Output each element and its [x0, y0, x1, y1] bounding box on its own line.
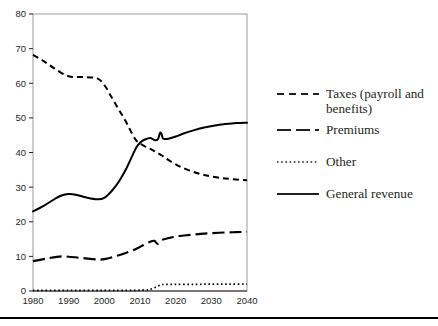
- x-tick-label: 2020: [165, 295, 186, 306]
- x-tick-label: 2040: [236, 295, 257, 306]
- legend-swatch-solid-icon: [277, 186, 319, 200]
- y-tick-label: 80: [15, 8, 26, 19]
- legend-swatch-dashed-long-icon: [277, 122, 319, 136]
- legend-item-general-revenue: General revenue: [277, 186, 438, 201]
- y-tick-label: 30: [15, 182, 26, 193]
- y-tick-label: 10: [15, 251, 26, 262]
- legend-item-premiums: Premiums: [277, 122, 438, 137]
- y-tick-label: 40: [15, 147, 26, 158]
- chart-legend: Taxes (payroll and benefits) Premiums Ot…: [277, 86, 438, 201]
- y-tick-marks: [29, 14, 33, 291]
- y-tick-label: 50: [15, 112, 26, 123]
- line-chart-svg: 01020304050607080 1980199020002010202020…: [0, 0, 270, 312]
- footer-divider: [0, 317, 438, 319]
- x-tick-label: 2010: [129, 295, 150, 306]
- y-tick-label: 70: [15, 43, 26, 54]
- legend-swatch-dotted-icon: [277, 154, 319, 168]
- legend-label-general-revenue: General revenue: [326, 186, 413, 201]
- y-tick-label: 20: [15, 216, 26, 227]
- legend-label-other: Other: [326, 154, 356, 169]
- legend-label-taxes: Taxes (payroll and benefits): [326, 86, 424, 116]
- x-axis-tick-labels: 1980199020002010202020302040: [22, 295, 257, 306]
- figure-container: 01020304050607080 1980199020002010202020…: [0, 0, 438, 326]
- y-tick-label: 60: [15, 78, 26, 89]
- y-axis-tick-labels: 01020304050607080: [15, 8, 26, 296]
- x-tick-label: 1990: [58, 295, 79, 306]
- x-tick-label: 2030: [201, 295, 222, 306]
- chart-plot-area: 01020304050607080 1980199020002010202020…: [0, 0, 270, 312]
- plot-frame: [33, 14, 247, 291]
- legend-swatch-dashed-short-icon: [277, 86, 319, 100]
- legend-item-other: Other: [277, 154, 438, 169]
- x-tick-label: 2000: [94, 295, 115, 306]
- x-tick-label: 1980: [22, 295, 43, 306]
- legend-label-premiums: Premiums: [326, 122, 379, 137]
- legend-item-taxes: Taxes (payroll and benefits): [277, 86, 438, 116]
